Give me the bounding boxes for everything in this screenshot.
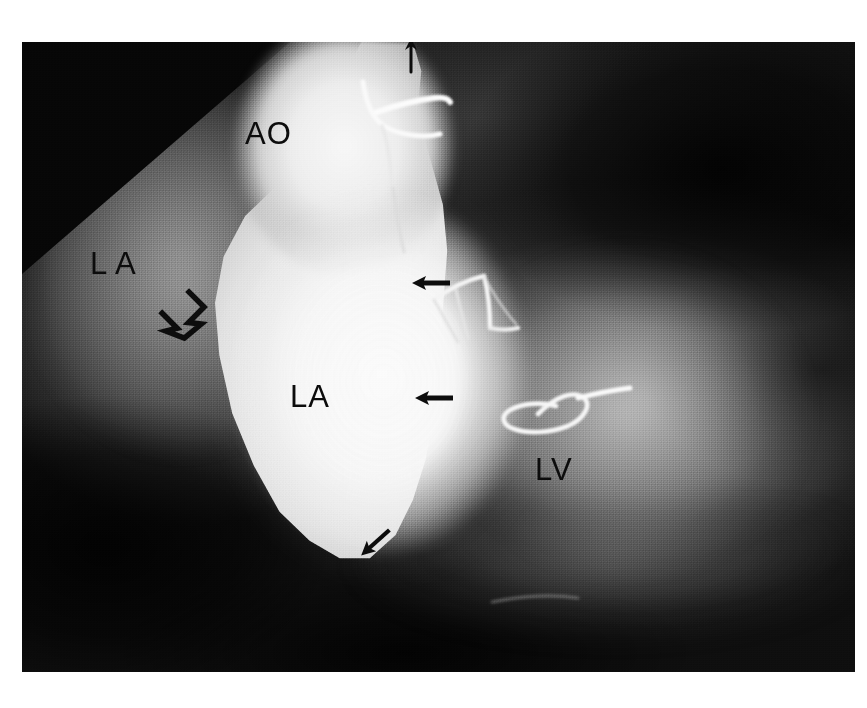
label-left-atrium-center: LA (290, 381, 330, 412)
label-aorta: AO (245, 118, 292, 149)
page-margin-top (0, 0, 867, 42)
arrow-mid-upper-icon (408, 270, 454, 296)
arrow-mid-lower-icon (411, 385, 457, 411)
arrow-inferior-icon (350, 520, 402, 564)
screenshot-root: AO L A LA LV (0, 0, 867, 708)
arrow-open-la-border-icon (150, 274, 220, 344)
radiograph-plate: AO L A LA LV (22, 42, 855, 672)
page-margin-left (0, 0, 22, 708)
label-left-ventricle: LV (535, 454, 573, 485)
page-margin-bottom (0, 672, 867, 708)
label-left-atrium-upper: L A (90, 248, 137, 279)
page-margin-right (855, 0, 867, 708)
arrow-top-aortic-icon (398, 42, 424, 76)
